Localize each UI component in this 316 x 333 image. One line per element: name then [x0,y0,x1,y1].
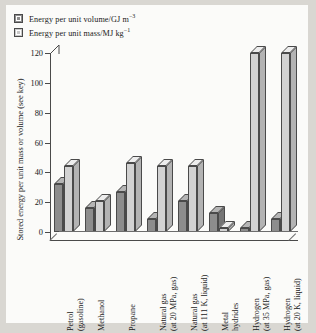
category-label-line1: Natural gas [190,293,199,331]
y-axis-tick-label: 100 [30,78,43,87]
bar-front-face [178,201,187,232]
bar-mass[interactable] [157,166,166,232]
y-axis-tick-label: 120 [30,49,43,58]
plot-area: 020406080100120 [50,53,298,241]
bar-front-face [95,201,104,232]
legend-item-label: Energy per unit mass/MJ kg−1 [29,27,130,38]
bar-side-face [259,46,266,232]
category-label-line1: Hydrogen [252,298,261,331]
x-axis-category-label: Natural gas(at 20 MPa, gas) [159,277,178,331]
bar-volume[interactable] [271,219,280,232]
category-label-line2: hydrides [231,303,241,331]
figure-panel: Energy per unit volume/GJ m−3 Energy per… [6,5,308,323]
bar-group [271,53,302,232]
bar-front-face [271,219,280,232]
floor-back-edge [59,231,298,232]
legend-item-volume: Energy per unit volume/GJ m−3 [14,11,135,25]
bar-front-face [85,208,94,232]
bar-volume[interactable] [85,208,94,232]
bar-group [147,53,178,232]
category-label-line2: (at 20 K, liquid) [293,278,303,331]
bar-group [209,53,240,232]
x-axis-category-label: Hydrogen(at 20 K, liquid) [283,278,302,331]
bar-mass[interactable] [126,163,135,232]
bar-side-face [290,46,297,232]
bar-front-face [281,53,290,232]
category-label-line1: Propane [128,304,137,331]
category-label-line2: (at 35 MPa, gas) [262,277,272,331]
bar-mass[interactable] [188,166,197,232]
x-axis-category-label: Petrol(gasoline) [66,298,85,331]
x-axis-category-label: Natural gas(at 111 K, liquid) [190,275,209,331]
bar-mass[interactable] [281,53,290,232]
category-label-line2: (gasoline) [76,298,86,331]
category-label-line2: (at 20 MPa, gas) [169,277,179,331]
y-axis-tick-label: 40 [35,168,43,177]
bar-volume[interactable] [54,184,63,232]
y-axis-tick-label: 20 [35,198,43,207]
legend-swatch-icon [14,14,23,23]
bar-mass[interactable] [95,201,104,232]
bar-front-face [54,184,63,232]
y-axis-tick-label: 0 [39,228,43,237]
x-axis-category-label: Metalhydrides [221,303,240,331]
legend-item-label: Energy per unit volume/GJ m−3 [29,13,135,24]
x-axis-category-label: Hydrogen(at 35 MPa, gas) [252,277,271,331]
bar-volume[interactable] [147,219,156,232]
x-axis-category-label: Methanol [97,300,107,331]
y-axis-tick-label: 60 [35,138,43,147]
bar-front-face [250,53,259,232]
bar-volume[interactable] [116,192,125,232]
category-label-line1: Methanol [97,300,106,331]
chart-legend: Energy per unit volume/GJ m−3 Energy per… [14,11,135,39]
bar-mass[interactable] [250,53,259,232]
bar-side-face [135,156,142,232]
category-label-line1: Natural gas [159,293,168,331]
bar-side-face [166,159,173,232]
category-label-line1: Metal [221,312,230,331]
bar-group [54,53,85,232]
bar-front-face [147,219,156,232]
bar-front-face [126,163,135,232]
floor-front-edge [50,240,298,241]
category-label-line2: (at 111 K, liquid) [200,275,210,331]
bar-group [240,53,271,232]
plot-floor [50,232,298,241]
category-label-line1: Petrol [66,311,75,331]
x-axis-labels: Petrol(gasoline)MethanolPropaneNatural g… [50,245,298,333]
bar-group [178,53,209,232]
x-axis-category-label: Propane [128,304,138,331]
bar-series-container [50,53,298,232]
legend-item-mass: Energy per unit mass/MJ kg−1 [14,25,135,39]
bar-front-face [157,166,166,232]
bar-mass[interactable] [64,166,73,232]
bar-front-face [64,166,73,232]
category-label-line1: Hydrogen [283,298,292,331]
bar-side-face [197,159,204,232]
y-axis-title: Stored energy per unit mass or volume (s… [16,60,25,260]
bar-side-face [73,159,80,232]
bar-volume[interactable] [178,201,187,232]
bar-group [85,53,116,232]
y-axis-tick-label: 80 [35,108,43,117]
bar-front-face [188,166,197,232]
legend-swatch-icon [14,28,23,37]
bar-group [116,53,147,232]
bar-front-face [116,192,125,232]
bar-volume[interactable] [209,213,218,232]
bar-front-face [209,213,218,232]
